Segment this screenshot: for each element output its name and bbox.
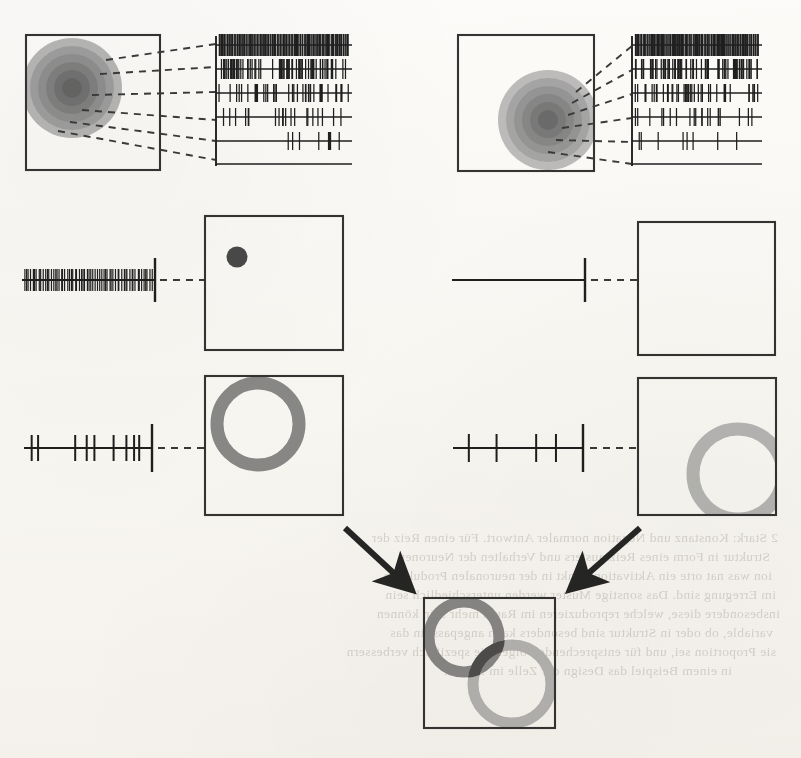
raster-right	[632, 34, 762, 166]
figure-root: 2 Stark: Konstanz und Negation normaler …	[0, 0, 801, 758]
response-box-mid-left	[205, 216, 343, 350]
arrow-from-left	[345, 528, 400, 579]
figure-canvas	[0, 0, 801, 758]
raster-left	[216, 34, 352, 166]
arrow-from-right	[582, 528, 640, 579]
panel-mid-left	[22, 216, 343, 350]
ring-response-dark	[217, 383, 299, 465]
panel-summary	[424, 598, 555, 728]
panel-mid-right	[452, 222, 775, 355]
blob-gradient-right	[498, 70, 598, 170]
response-box-mid-right-empty	[638, 222, 775, 355]
ring-response-light	[693, 429, 783, 519]
summary-ring-dark	[429, 602, 499, 672]
panel-low-right	[453, 378, 783, 519]
panel-top-right	[458, 34, 762, 171]
panel-low-left	[24, 376, 343, 515]
point-response-dot	[227, 247, 248, 268]
panel-top-left	[22, 34, 352, 170]
